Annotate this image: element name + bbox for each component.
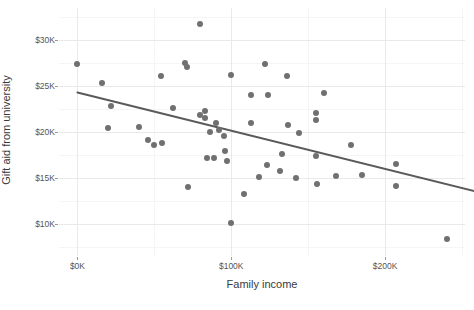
x-tick-label: $200K [373, 261, 398, 271]
data-point [184, 64, 190, 70]
y-tick-mark [55, 86, 58, 87]
y-tick-mark [55, 132, 58, 133]
data-point [393, 183, 399, 189]
y-axis-title-wrapper: Gift aid from university [0, 0, 1, 1]
data-point [284, 73, 290, 79]
data-point [444, 236, 450, 242]
x-tick-label: $0K [70, 261, 85, 271]
data-point [321, 90, 327, 96]
y-tick-label: $25K [35, 81, 55, 91]
data-point [256, 174, 262, 180]
y-tick-label: $15K [35, 173, 55, 183]
data-point [313, 153, 319, 159]
y-axis-title: Gift aid from university [0, 6, 12, 254]
data-point [213, 120, 219, 126]
data-point [279, 151, 285, 157]
y-tick-mark [55, 40, 58, 41]
data-point [313, 110, 319, 116]
x-tick-mark [231, 257, 232, 260]
data-point [221, 133, 227, 139]
y-tick-label: $10K [35, 219, 55, 229]
data-point [158, 73, 164, 79]
data-point [296, 130, 302, 136]
trendline [59, 8, 465, 256]
y-tick-mark [55, 178, 58, 179]
data-point [293, 175, 299, 181]
data-point [202, 108, 208, 114]
scatter-plot-chart: $30K$25K$20K$15K$10K $0K$100K$200K Famil… [0, 0, 474, 310]
data-point [159, 140, 165, 146]
data-point [313, 117, 319, 123]
data-point [207, 129, 213, 135]
data-point [204, 155, 210, 161]
y-tick-label: $30K [35, 35, 55, 45]
plot-panel [59, 8, 465, 256]
data-point [393, 161, 399, 167]
y-tick-mark [55, 224, 58, 225]
data-point [264, 162, 270, 168]
x-tick-mark [385, 257, 386, 260]
data-point [333, 173, 339, 179]
x-tick-label: $100K [219, 261, 244, 271]
y-tick-label: $20K [35, 127, 55, 137]
x-axis-title: Family income [59, 278, 465, 290]
x-tick-mark [77, 257, 78, 260]
data-point [348, 142, 354, 148]
data-point [170, 105, 176, 111]
data-point [285, 122, 291, 128]
x-axis-tick-labels: $0K$100K$200K [59, 261, 465, 275]
